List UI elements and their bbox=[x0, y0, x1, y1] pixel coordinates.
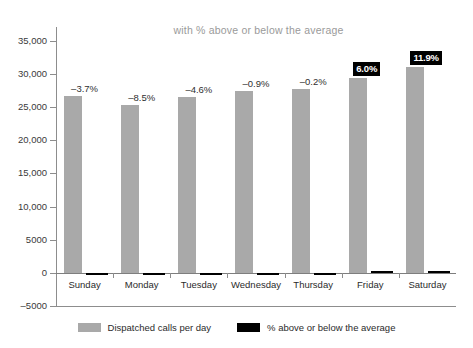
bar-percent-deviation[interactable] bbox=[86, 273, 108, 275]
x-axis-category-label: Wednesday bbox=[227, 279, 284, 290]
bar-dispatched-calls[interactable] bbox=[64, 96, 82, 273]
x-axis-category-label: Monday bbox=[113, 279, 170, 290]
y-tick bbox=[50, 74, 56, 75]
y-axis-label: 30,000 bbox=[3, 68, 47, 79]
legend-label: % above or below the average bbox=[267, 322, 395, 333]
x-tick bbox=[285, 273, 286, 278]
x-tick bbox=[399, 273, 400, 278]
legend-item[interactable]: Dispatched calls per day bbox=[78, 322, 212, 333]
bar-percent-deviation[interactable] bbox=[257, 273, 279, 275]
y-axis-label: 25,000 bbox=[3, 101, 47, 112]
bar-dispatched-calls[interactable] bbox=[292, 89, 310, 273]
bar-percent-deviation[interactable] bbox=[200, 273, 222, 275]
data-label: –3.7% bbox=[55, 83, 115, 94]
data-label: –0.9% bbox=[226, 78, 286, 89]
y-axis-label: 20,000 bbox=[3, 134, 47, 145]
y-tick bbox=[50, 306, 56, 307]
chart-legend: Dispatched calls per day% above or below… bbox=[0, 322, 473, 333]
y-axis-label: 5000 bbox=[3, 234, 47, 245]
x-tick bbox=[170, 273, 171, 278]
bar-percent-deviation[interactable] bbox=[371, 271, 393, 273]
data-label: –0.2% bbox=[283, 76, 343, 87]
y-axis-label: –5000 bbox=[3, 300, 47, 311]
zero-baseline bbox=[56, 273, 456, 274]
y-tick bbox=[50, 207, 56, 208]
legend-swatch-black bbox=[237, 323, 260, 332]
x-tick bbox=[113, 273, 114, 278]
data-label: 6.0% bbox=[353, 62, 380, 76]
bar-percent-deviation[interactable] bbox=[143, 273, 165, 275]
y-tick bbox=[50, 41, 56, 42]
y-tick bbox=[50, 273, 56, 274]
y-axis-label: 0 bbox=[3, 267, 47, 278]
bar-dispatched-calls[interactable] bbox=[349, 78, 367, 273]
bar-percent-deviation[interactable] bbox=[314, 273, 336, 275]
data-label: 11.9% bbox=[410, 51, 441, 65]
y-tick bbox=[50, 140, 56, 141]
legend-swatch-gray bbox=[78, 323, 101, 332]
data-label: –4.6% bbox=[169, 84, 229, 95]
x-axis-category-label: Sunday bbox=[56, 279, 113, 290]
bar-dispatched-calls[interactable] bbox=[178, 97, 196, 273]
x-axis-category-label: Friday bbox=[342, 279, 399, 290]
y-axis-line bbox=[56, 27, 57, 306]
plot-bottom-frame bbox=[56, 306, 456, 307]
bar-percent-deviation[interactable] bbox=[428, 271, 450, 273]
y-tick bbox=[50, 173, 56, 174]
chart-title: with % above or below the average bbox=[0, 24, 473, 36]
x-axis-category-label: Saturday bbox=[399, 279, 456, 290]
y-tick bbox=[50, 240, 56, 241]
x-tick bbox=[227, 273, 228, 278]
legend-item[interactable]: % above or below the average bbox=[237, 322, 395, 333]
y-axis-label: 15,000 bbox=[3, 167, 47, 178]
x-axis-category-label: Thursday bbox=[285, 279, 342, 290]
legend-label: Dispatched calls per day bbox=[108, 322, 212, 333]
x-tick bbox=[342, 273, 343, 278]
x-axis-category-label: Tuesday bbox=[170, 279, 227, 290]
bar-dispatched-calls[interactable] bbox=[235, 91, 253, 273]
y-axis-label: 35,000 bbox=[3, 35, 47, 46]
bar-chart: with % above or below the average 35,000… bbox=[0, 0, 473, 348]
data-label: –8.5% bbox=[112, 92, 172, 103]
bar-dispatched-calls[interactable] bbox=[121, 105, 139, 273]
y-axis-label: 10,000 bbox=[3, 201, 47, 212]
bar-dispatched-calls[interactable] bbox=[406, 67, 424, 273]
y-tick bbox=[50, 107, 56, 108]
